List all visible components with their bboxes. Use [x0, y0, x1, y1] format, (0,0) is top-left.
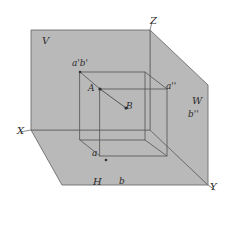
- point-a-dot: [98, 87, 101, 90]
- x-axis-label: X: [17, 126, 24, 136]
- point-a-label: A: [88, 84, 95, 93]
- point-b-label: B: [126, 102, 133, 111]
- horizontal-plane-label: H: [93, 177, 102, 187]
- vertical-plane-label: V: [42, 36, 49, 46]
- projection-b-horizontal-dot: [105, 159, 108, 162]
- profile-plane-label: W: [192, 96, 202, 106]
- projection-diagram: X Y Z V H W A B a'b' a b a'' b'': [0, 0, 228, 233]
- projection-a-horizontal-label: a: [92, 149, 97, 158]
- projection-b-profile-label: b'': [188, 110, 199, 119]
- y-axis-label: Y: [210, 182, 217, 192]
- projection-ab-frontal-dot: [79, 71, 82, 74]
- projection-ab-frontal-label: a'b': [72, 59, 88, 68]
- projection-b-horizontal-label: b: [119, 177, 125, 186]
- projection-a-profile-label: a'': [166, 82, 176, 91]
- z-axis-label: Z: [150, 16, 157, 26]
